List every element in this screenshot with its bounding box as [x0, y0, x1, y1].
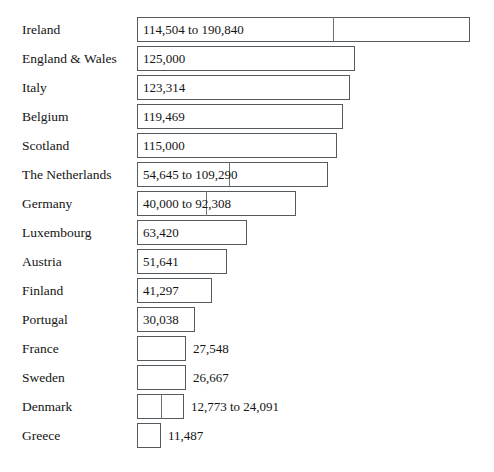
category-label: Luxembourg [22, 218, 92, 247]
bar-value-label-outside: 11,487 [168, 423, 203, 448]
chart-row: The Netherlands54,645 to 109,290 [0, 160, 494, 189]
bar-range-divider [161, 394, 162, 419]
bar-value-label-inside: 41,297 [143, 278, 179, 303]
category-label: Austria [22, 247, 62, 276]
category-label: Sweden [22, 363, 65, 392]
bar-value-label-inside: 119,469 [143, 104, 185, 129]
chart-row: Scotland115,000 [0, 131, 494, 160]
chart-row: Sweden26,667 [0, 363, 494, 392]
chart-row: Finland41,297 [0, 276, 494, 305]
chart-row: England & Wales125,000 [0, 44, 494, 73]
chart-row: France27,548 [0, 334, 494, 363]
bar-value-label-inside: 54,645 to 109,290 [143, 162, 238, 187]
bar-range-divider [333, 17, 334, 42]
chart-row: Austria51,641 [0, 247, 494, 276]
horizontal-bar-chart: Ireland114,504 to 190,840England & Wales… [0, 0, 494, 472]
bar-value-label-inside: 125,000 [143, 46, 185, 71]
bar-value-label-inside: 63,420 [143, 220, 179, 245]
category-label: Ireland [22, 15, 60, 44]
bar [137, 336, 186, 361]
chart-row: Belgium119,469 [0, 102, 494, 131]
category-label: Greece [22, 421, 60, 450]
category-label: Italy [22, 73, 47, 102]
bar-value-label-outside: 12,773 to 24,091 [191, 394, 279, 419]
bar-value-label-inside: 40,000 to 92,308 [143, 191, 231, 216]
chart-row: Denmark12,773 to 24,091 [0, 392, 494, 421]
chart-row: Ireland114,504 to 190,840 [0, 15, 494, 44]
chart-row: Luxembourg63,420 [0, 218, 494, 247]
bar-value-label-inside: 123,314 [143, 75, 185, 100]
category-label: Germany [22, 189, 72, 218]
bar [137, 423, 161, 448]
chart-row: Italy123,314 [0, 73, 494, 102]
bar-value-label-inside: 115,000 [143, 133, 185, 158]
bar-value-label-inside: 30,038 [143, 307, 179, 332]
bar-value-label-inside: 114,504 to 190,840 [143, 17, 244, 42]
category-label: France [22, 334, 59, 363]
bar [137, 365, 186, 390]
bar-value-label-inside: 51,641 [143, 249, 179, 274]
category-label: Portugal [22, 305, 68, 334]
chart-row: Germany40,000 to 92,308 [0, 189, 494, 218]
bar-value-label-outside: 26,667 [193, 365, 229, 390]
chart-row: Greece11,487 [0, 421, 494, 450]
category-label: Belgium [22, 102, 69, 131]
chart-row: Portugal30,038 [0, 305, 494, 334]
category-label: Scotland [22, 131, 69, 160]
category-label: The Netherlands [22, 160, 112, 189]
category-label: England & Wales [22, 44, 117, 73]
bar-value-label-outside: 27,548 [193, 336, 229, 361]
category-label: Denmark [22, 392, 72, 421]
category-label: Finland [22, 276, 63, 305]
